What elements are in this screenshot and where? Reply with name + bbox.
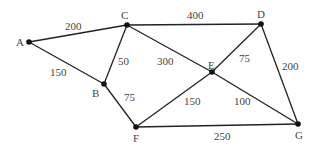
- edge-weight-label: 150: [184, 96, 201, 107]
- edge-weight-label: 300: [157, 56, 174, 67]
- edge-weight-label: 50: [118, 56, 129, 67]
- node-C: [124, 22, 130, 28]
- node-D: [258, 21, 264, 27]
- edge-weight-label: 100: [234, 96, 251, 107]
- edge-weight-label: 250: [214, 131, 231, 142]
- node-label: A: [16, 37, 24, 48]
- node-label: F: [133, 133, 139, 144]
- edge-F-G: [136, 124, 298, 127]
- edge-weight-label: 75: [239, 53, 250, 64]
- weighted-graph-diagram: 200150504003007575200150100250ABCDEFG: [0, 0, 318, 147]
- node-G: [295, 121, 301, 127]
- edge-D-G: [261, 24, 298, 124]
- edge-weight-label: 75: [124, 92, 135, 103]
- graph-canvas: [0, 0, 318, 147]
- edge-weight-label: 200: [282, 61, 299, 72]
- edge-E-D: [212, 24, 261, 72]
- node-label: B: [92, 88, 99, 99]
- node-label: D: [257, 9, 265, 20]
- edge-weight-label: 200: [65, 21, 82, 32]
- node-label: G: [295, 130, 303, 141]
- edge-weight-label: 400: [187, 10, 204, 21]
- node-B: [101, 81, 107, 87]
- node-F: [133, 124, 139, 130]
- node-label: C: [121, 10, 128, 21]
- edge-C-D: [127, 24, 261, 25]
- edge-weight-label: 150: [50, 67, 67, 78]
- node-A: [26, 39, 32, 45]
- node-label: E: [208, 60, 215, 71]
- edge-E-G: [212, 72, 298, 124]
